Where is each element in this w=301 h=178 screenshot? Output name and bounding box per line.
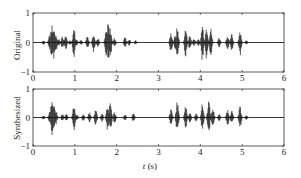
plot-synthesized: 0123456−101	[20, 84, 286, 157]
waveform-figure: 0123456−101 0123456−101 Original Synthes…	[0, 0, 301, 178]
x-tick-label: 2	[114, 73, 119, 83]
x-tick-label: 5	[240, 73, 245, 83]
y-tick-label: −1	[20, 67, 30, 77]
x-tick-label: 6	[282, 73, 287, 83]
x-tick-label: 0	[31, 147, 36, 157]
x-tick-label: 3	[156, 147, 161, 157]
y-tick-label: 1	[26, 84, 31, 94]
figure: 0123456−101 0123456−101 Original Synthes…	[0, 0, 301, 178]
x-tick-label: 3	[156, 73, 161, 83]
x-tick-label: 1	[73, 73, 78, 83]
x-tick-label: 2	[114, 147, 119, 157]
y-tick-label: 1	[26, 8, 31, 18]
x-tick-label: 1	[73, 147, 78, 157]
y-axis-label-synthesized: Synthesized	[12, 96, 22, 140]
waveform	[42, 102, 248, 135]
waveform	[42, 24, 248, 59]
y-tick-label: −1	[20, 141, 30, 151]
y-tick-label: 0	[26, 113, 31, 123]
y-axis-label-original: Original	[12, 30, 22, 60]
x-axis-label: t (s)	[143, 161, 157, 171]
y-tick-label: 0	[26, 38, 31, 48]
x-tick-label: 0	[31, 73, 36, 83]
x-tick-label: 4	[198, 73, 203, 83]
x-tick-label: 4	[198, 147, 203, 157]
x-tick-label: 6	[282, 147, 287, 157]
plot-original: 0123456−101	[20, 8, 286, 83]
x-tick-label: 5	[240, 147, 245, 157]
